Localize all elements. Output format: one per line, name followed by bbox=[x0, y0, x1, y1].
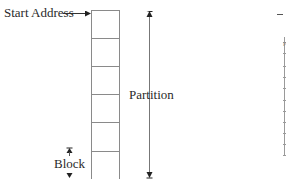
block-label: Block bbox=[54, 157, 85, 171]
adjacent-diagram-fragment bbox=[277, 15, 286, 157]
start-address-label: Start Address bbox=[4, 6, 74, 20]
memory-partition-diagram: Start Address Partition Block P bbox=[0, 0, 286, 179]
adjacent-fragment-label: P bbox=[283, 37, 286, 51]
partition-label: Partition bbox=[129, 88, 174, 102]
partition-block-stack bbox=[91, 10, 120, 179]
